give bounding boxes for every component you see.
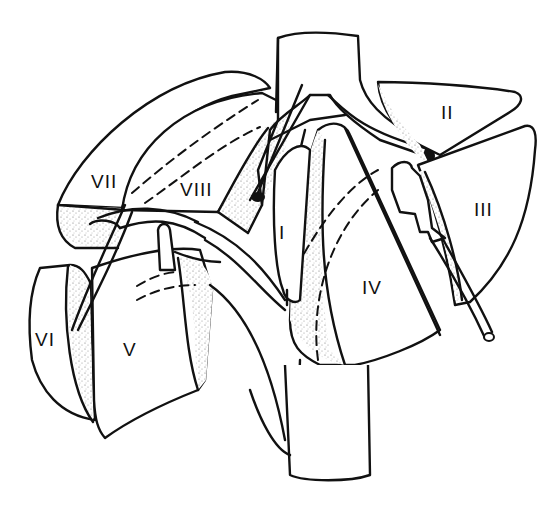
liver-drawing [0,0,556,505]
segment-iv-shape [290,124,440,365]
segment-label-iii: III [474,200,493,219]
segment-label-vii: VII [91,172,117,191]
segment-label-ii: II [441,103,454,122]
segment-label-viii: VIII [180,180,213,199]
segment-label-iv: IV [362,278,382,297]
segment-label-vi: VI [35,330,55,349]
segment-label-v: V [123,340,137,359]
segment-label-i: I [279,223,285,242]
liver-segments-diagram: I II III IV V VI VII VIII [0,0,556,505]
segment-v-shape [92,249,213,438]
